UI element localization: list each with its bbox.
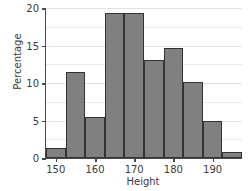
histogram-bar (203, 121, 223, 158)
histogram-bar (183, 82, 203, 158)
y-axis-tick-label: 15 (26, 40, 39, 51)
histogram-bar (222, 152, 242, 158)
y-axis-tick (42, 46, 46, 48)
y-axis-tick-label: 5 (33, 115, 39, 126)
x-axis-tick-label: 150 (46, 164, 65, 175)
histogram-bar (144, 60, 164, 158)
x-axis-tick (213, 158, 215, 162)
y-axis-tick (42, 158, 46, 160)
histogram-bar (164, 48, 184, 158)
x-axis-tick (134, 158, 136, 162)
histogram-bar (46, 148, 66, 159)
y-axis-tick-label: 20 (26, 3, 39, 14)
y-axis-tick-label: 0 (33, 153, 39, 164)
x-axis-tick-label: 170 (125, 164, 144, 175)
x-axis-tick (95, 158, 97, 162)
x-axis-tick-label: 190 (203, 164, 222, 175)
y-axis-tick (42, 83, 46, 85)
x-axis-tick (56, 158, 58, 162)
y-axis-tick-label: 10 (26, 78, 39, 89)
histogram-bar (124, 13, 144, 159)
plot-area: 05101520150160170180190 (45, 8, 242, 159)
histogram-bar (105, 13, 125, 159)
y-axis-title: Percentage (12, 14, 23, 110)
x-axis-title: Height (45, 176, 241, 187)
y-axis-tick (42, 121, 46, 123)
y-axis-tick (42, 8, 46, 10)
x-axis-tick-label: 180 (164, 164, 183, 175)
x-axis-tick (173, 158, 175, 162)
bars-layer (46, 8, 242, 158)
histogram-chart: Percentage 05101520150160170180190 Heigh… (0, 0, 252, 191)
histogram-bar (85, 117, 105, 158)
x-axis-tick-label: 160 (85, 164, 104, 175)
histogram-bar (66, 72, 86, 158)
